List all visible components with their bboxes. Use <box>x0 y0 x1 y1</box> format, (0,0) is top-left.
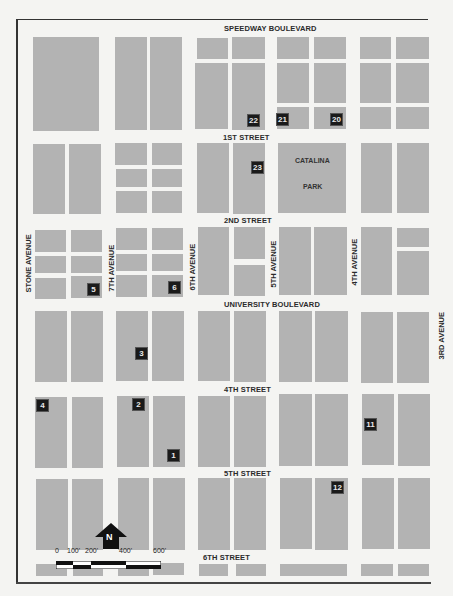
city-block <box>397 312 429 383</box>
scale-tick-400: 400' <box>119 547 132 554</box>
city-block <box>36 479 68 550</box>
scale-tick-200: 200' <box>85 547 98 554</box>
city-block <box>362 478 394 549</box>
city-block <box>361 143 392 213</box>
city-block <box>277 37 309 59</box>
city-block <box>71 311 103 382</box>
city-block <box>72 397 103 468</box>
city-block <box>150 37 182 130</box>
city-block <box>115 37 147 130</box>
city-block <box>35 256 66 273</box>
city-block <box>116 275 147 297</box>
location-marker-22[interactable]: 22 <box>248 115 259 126</box>
street-label-1st-street: 1ST STREET <box>223 133 269 142</box>
location-marker-23[interactable]: 23 <box>252 162 263 173</box>
park-label-catalina: CATALINA <box>295 157 330 164</box>
city-block <box>153 478 185 550</box>
city-block <box>69 144 101 214</box>
catalina-park <box>278 143 346 213</box>
city-block <box>360 63 391 103</box>
city-block <box>361 227 392 295</box>
city-block <box>35 311 67 382</box>
street-label-speedway-boulevard: SPEEDWAY BOULEVARD <box>224 24 317 33</box>
city-block <box>314 63 346 103</box>
city-block <box>152 254 183 271</box>
street-label-university-boulevard: UNIVERSITY BOULEVARD <box>224 300 320 309</box>
city-block <box>198 396 230 467</box>
city-block <box>314 37 346 59</box>
location-marker-11[interactable]: 11 <box>365 419 376 430</box>
avenue-label-3rd-avenue: 3RD AVENUE <box>437 310 446 360</box>
city-block <box>115 143 147 165</box>
city-block <box>152 311 184 381</box>
city-block <box>35 278 66 299</box>
city-block <box>397 228 429 247</box>
avenue-label-5th-avenue: 5TH AVENUE <box>269 238 278 288</box>
city-block <box>116 254 147 271</box>
scale-bar-graphic <box>56 561 161 569</box>
frame-bottom-border <box>16 582 431 584</box>
avenue-label-6th-avenue: 6TH AVENUE <box>188 241 197 291</box>
location-marker-6[interactable]: 6 <box>169 282 180 293</box>
city-block <box>71 256 102 273</box>
city-block <box>233 143 265 214</box>
park-label-park: PARK <box>303 183 322 190</box>
city-block <box>234 227 265 259</box>
street-label-6th-street: 6TH STREET <box>203 553 250 562</box>
city-block <box>35 230 66 252</box>
city-block <box>197 143 229 213</box>
street-label-4th-street: 4TH STREET <box>224 385 271 394</box>
city-block <box>397 143 429 213</box>
city-block <box>152 143 182 165</box>
city-block <box>315 311 348 382</box>
location-marker-1[interactable]: 1 <box>168 450 179 461</box>
city-block <box>33 37 99 131</box>
north-arrow-label: N <box>106 532 113 542</box>
city-block <box>280 564 347 576</box>
frame-top-border <box>16 19 428 20</box>
location-marker-20[interactable]: 20 <box>331 114 342 125</box>
city-block <box>195 63 228 129</box>
city-block <box>71 230 102 252</box>
city-block <box>279 311 312 382</box>
street-label-2nd-street: 2ND STREET <box>224 216 272 225</box>
city-block <box>199 564 228 576</box>
location-marker-2[interactable]: 2 <box>133 399 144 410</box>
city-block <box>279 227 311 295</box>
city-block <box>361 564 393 576</box>
city-block <box>33 144 65 214</box>
city-block <box>396 107 429 129</box>
city-block <box>198 311 230 381</box>
avenue-label-4th-avenue: 4TH AVENUE <box>350 236 359 286</box>
street-label-5th-street: 5TH STREET <box>224 469 271 478</box>
scale-tick-600: 600' <box>153 547 166 554</box>
city-block <box>397 251 429 295</box>
city-block <box>277 63 309 103</box>
scale-tick-100: 100' <box>67 547 80 554</box>
city-block <box>280 478 312 549</box>
location-marker-5[interactable]: 5 <box>88 284 99 295</box>
location-marker-4[interactable]: 4 <box>37 400 48 411</box>
city-block <box>398 478 430 549</box>
city-block <box>116 311 148 381</box>
avenue-label-stone-avenue: STONE AVENUE <box>24 235 33 293</box>
scale-tick-0: 0 <box>55 547 59 554</box>
city-block <box>232 37 265 59</box>
city-block <box>234 396 266 467</box>
city-block <box>197 38 228 59</box>
frame-left-border <box>16 19 18 583</box>
city-block <box>396 37 429 59</box>
city-block <box>360 37 391 59</box>
location-marker-3[interactable]: 3 <box>136 348 147 359</box>
city-block <box>198 227 229 295</box>
city-block <box>234 265 265 296</box>
city-block <box>116 169 147 187</box>
location-marker-21[interactable]: 21 <box>277 114 288 125</box>
avenue-label-7th-avenue: 7TH AVENUE <box>107 242 116 292</box>
city-block <box>198 478 230 550</box>
city-block <box>116 228 147 250</box>
city-block <box>398 564 429 576</box>
city-block <box>234 311 266 382</box>
city-block <box>361 312 393 383</box>
location-marker-12[interactable]: 12 <box>332 482 343 493</box>
